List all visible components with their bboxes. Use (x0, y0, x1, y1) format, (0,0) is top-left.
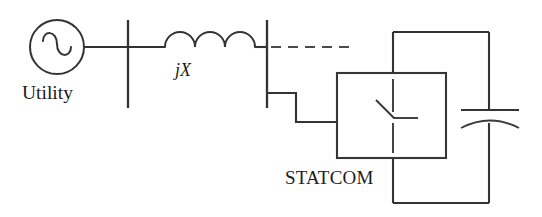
inductor-coil-icon (165, 32, 255, 47)
statcom-switch-blade-icon (376, 100, 394, 118)
statcom-block[interactable] (337, 73, 446, 158)
wire-bus-to-statcom (267, 93, 337, 122)
utility-label: Utility (22, 82, 73, 103)
series-reactance (165, 32, 255, 47)
statcom-label: STATCOM (285, 167, 374, 188)
single-line-diagram-canvas: Utility jX STATCOM (0, 0, 542, 217)
ac-voltage-source (30, 20, 84, 74)
circuit-diagram: Utility jX STATCOM (0, 0, 542, 217)
reactance-label: jX (173, 60, 192, 80)
